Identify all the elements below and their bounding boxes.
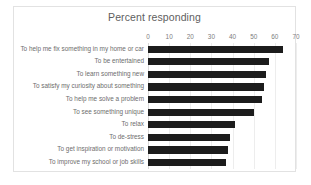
category-label: To improve my school or job skills xyxy=(49,156,148,168)
category-label: To help me fix something in my home or c… xyxy=(20,43,148,55)
bar-row: To de-stress xyxy=(148,131,296,144)
bar-row: To satisfy my curiosity about something xyxy=(148,81,296,94)
gridline xyxy=(296,43,297,169)
bar xyxy=(148,134,230,141)
category-label: To help me solve a problem xyxy=(66,93,148,105)
x-axis-tick-labels: 010203040506070 xyxy=(148,33,296,43)
category-label: To learn something new xyxy=(77,68,149,80)
bar xyxy=(148,109,254,116)
bar xyxy=(148,159,226,166)
category-label: To be entertained xyxy=(95,55,148,67)
bar-row: To relax xyxy=(148,119,296,132)
chart-title: Percent responding xyxy=(14,11,295,23)
chart-container: Percent responding 010203040506070 To he… xyxy=(13,6,296,172)
bar-row: To help me fix something in my home or c… xyxy=(148,43,296,56)
category-label: To see something unique xyxy=(73,106,148,118)
bar xyxy=(148,83,264,90)
x-axis-tick-20: 20 xyxy=(187,33,194,40)
category-label: To de-stress xyxy=(109,131,148,143)
bar-row: To improve my school or job skills xyxy=(148,156,296,169)
x-axis-tick-10: 10 xyxy=(166,33,173,40)
x-axis-tick-70: 70 xyxy=(292,33,299,40)
plot-area: To help me fix something in my home or c… xyxy=(148,43,296,169)
x-axis-tick-50: 50 xyxy=(250,33,257,40)
bar-series: To help me fix something in my home or c… xyxy=(148,43,296,169)
category-label: To relax xyxy=(122,118,148,130)
bar xyxy=(148,96,262,103)
bar-row: To help me solve a problem xyxy=(148,93,296,106)
bar xyxy=(148,58,269,65)
x-axis-tick-0: 0 xyxy=(146,33,150,40)
category-label: To satisfy my curiosity about something xyxy=(33,80,148,92)
x-axis-tick-30: 30 xyxy=(208,33,215,40)
bar-row: To learn something new xyxy=(148,68,296,81)
bar xyxy=(148,71,266,78)
x-axis-tick-60: 60 xyxy=(271,33,278,40)
x-axis-tick-40: 40 xyxy=(229,33,236,40)
category-label: To get inspiration or motivation xyxy=(57,143,148,155)
bar-row: To see something unique xyxy=(148,106,296,119)
bar xyxy=(148,46,283,53)
bar-row: To be entertained xyxy=(148,56,296,69)
bar xyxy=(148,146,228,153)
bar xyxy=(148,121,235,128)
bar-row: To get inspiration or motivation xyxy=(148,144,296,157)
